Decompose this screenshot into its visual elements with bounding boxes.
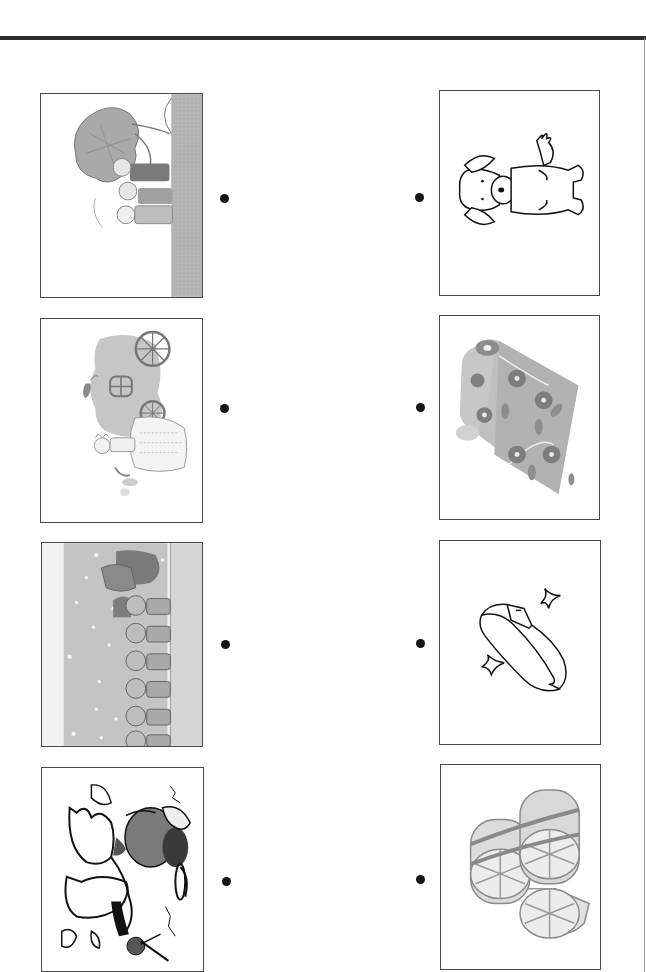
right-picture-2: Roll of flower-patterned fabric: [439, 315, 600, 520]
right-picture-1: Cartoon dog sitting: [439, 90, 600, 296]
left-connector-dot-3[interactable]: [221, 640, 230, 649]
left-connector-dot-4[interactable]: [222, 877, 231, 886]
right-picture-4: Stack of woven straw hats / bales: [440, 764, 601, 970]
left-picture-4: Crane bird flapping near a man with a ha…: [41, 767, 204, 972]
straw-hats-icon: [441, 765, 600, 969]
princess-pumpkin-carriage-icon: [41, 319, 202, 522]
top-rule: [0, 36, 646, 40]
right-connector-dot-2[interactable]: [416, 403, 425, 412]
left-picture-2: Princess in gown beside a pumpkin carria…: [40, 318, 203, 523]
left-connector-dot-2[interactable]: [220, 404, 229, 413]
right-connector-dot-4[interactable]: [416, 875, 425, 884]
right-connector-dot-1[interactable]: [415, 193, 424, 202]
left-picture-1: People pulling under a large leafy tree …: [40, 93, 203, 298]
dog-icon: [440, 91, 599, 295]
glass-slipper-icon: [440, 541, 600, 744]
left-picture-3: Row of stone statues in the snow with a …: [41, 542, 203, 747]
crane-rescue-icon: [42, 768, 203, 971]
cloth-roll-icon: [440, 316, 599, 519]
left-connector-dot-1[interactable]: [220, 194, 229, 203]
right-connector-dot-3[interactable]: [416, 639, 425, 648]
jizo-statues-snow-icon: [42, 543, 202, 746]
right-picture-3: Shiny shoe with sparkles: [439, 540, 601, 745]
right-margin-rule: [644, 38, 645, 972]
tree-scene-icon: [41, 94, 202, 297]
